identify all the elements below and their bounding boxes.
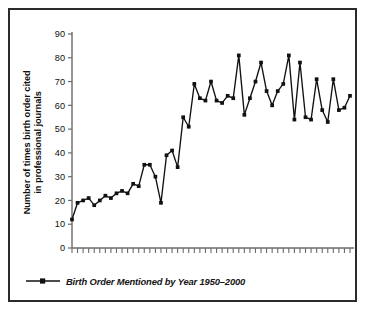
data-point-marker xyxy=(215,99,219,103)
y-tick-label: 70 xyxy=(55,77,65,87)
data-point-marker xyxy=(304,115,308,119)
data-point-marker xyxy=(326,120,330,124)
line-chart-svg: 0102030405060708090 xyxy=(10,10,359,304)
data-point-marker xyxy=(309,118,313,122)
data-point-marker xyxy=(231,96,235,100)
legend-line-marker-icon xyxy=(26,276,60,286)
data-point-marker xyxy=(220,101,224,105)
legend-label: Birth Order Mentioned by Year 1950–2000 xyxy=(66,276,245,287)
data-point-marker xyxy=(337,108,341,112)
data-point-marker xyxy=(287,54,291,58)
data-point-marker xyxy=(126,191,130,195)
data-point-marker xyxy=(142,163,146,167)
data-point-marker xyxy=(343,106,347,110)
data-point-marker xyxy=(254,80,258,84)
data-point-marker xyxy=(276,89,280,93)
data-point-marker xyxy=(70,218,74,222)
data-point-marker xyxy=(315,77,319,81)
data-point-marker xyxy=(176,165,180,169)
y-tick-label: 0 xyxy=(60,243,65,253)
x-axis xyxy=(72,248,354,253)
data-point-marker xyxy=(281,82,285,86)
data-point-marker xyxy=(259,61,263,65)
data-point-marker xyxy=(170,149,174,153)
figure-border: 0102030405060708090 Number of times birt… xyxy=(8,8,357,302)
data-point-marker xyxy=(298,61,302,65)
data-point-marker xyxy=(131,182,135,186)
data-point-marker xyxy=(331,77,335,81)
data-point-marker xyxy=(120,189,124,193)
data-point-marker xyxy=(293,118,297,122)
chart-figure: 0102030405060708090 Number of times birt… xyxy=(0,0,365,310)
y-tick-label: 30 xyxy=(55,172,65,182)
data-point-marker xyxy=(81,199,85,203)
data-point-marker xyxy=(237,54,241,58)
y-tick-label: 90 xyxy=(55,29,65,39)
data-point-marker xyxy=(270,103,274,107)
data-point-marker xyxy=(226,94,230,98)
data-point-marker xyxy=(198,96,202,100)
data-point-marker xyxy=(348,94,352,98)
y-tick-label: 80 xyxy=(55,53,65,63)
data-point-marker xyxy=(165,153,169,157)
data-point-marker xyxy=(192,82,196,86)
data-point-marker xyxy=(204,99,208,103)
y-tick-label: 40 xyxy=(55,148,65,158)
y-tick-label: 60 xyxy=(55,101,65,111)
data-point-marker xyxy=(320,108,324,112)
data-point-marker xyxy=(109,196,113,200)
data-point-marker xyxy=(187,125,191,129)
data-point-marker xyxy=(87,196,91,200)
data-point-marker xyxy=(159,201,163,205)
data-point-marker xyxy=(148,163,152,167)
y-tick-label: 20 xyxy=(55,196,65,206)
data-series xyxy=(70,54,352,222)
data-point-marker xyxy=(104,194,108,198)
data-point-marker xyxy=(98,199,102,203)
data-point-marker xyxy=(115,191,119,195)
data-point-marker xyxy=(181,115,185,119)
y-axis: 0102030405060708090 xyxy=(55,29,72,253)
plot-area: 0102030405060708090 Number of times birt… xyxy=(10,10,359,304)
y-tick-label: 10 xyxy=(55,219,65,229)
y-tick-label: 50 xyxy=(55,124,65,134)
data-point-marker xyxy=(265,89,269,93)
data-point-marker xyxy=(154,175,158,179)
data-point-marker xyxy=(92,203,96,207)
data-point-marker xyxy=(137,184,141,188)
data-point-marker xyxy=(243,113,247,117)
data-point-marker xyxy=(209,80,213,84)
data-point-marker xyxy=(248,96,252,100)
chart-legend: Birth Order Mentioned by Year 1950–2000 xyxy=(26,274,245,288)
data-point-marker xyxy=(76,201,80,205)
